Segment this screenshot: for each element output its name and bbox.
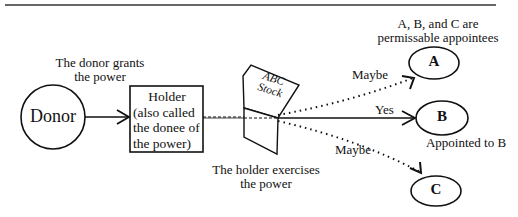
annotation-line: The holder exercises [206, 163, 326, 177]
edge-label-maybe-c: Maybe [335, 143, 371, 157]
annotation-line: the power [206, 177, 326, 191]
arrowhead-a-icon [402, 76, 414, 89]
annotation-line: permissable appointees [358, 31, 518, 45]
edge-label-maybe-a: Maybe [352, 68, 388, 82]
holder-label-line: the power) [133, 136, 201, 152]
holder-exercises-annotation: The holder exercises the power [206, 163, 326, 191]
donor-label: Donor [21, 106, 85, 127]
power-of-appointment-diagram: Donor Holder (also called the donee of t… [0, 0, 518, 217]
node-b-label: B [432, 108, 452, 125]
annotation-line: A, B, and C are [358, 17, 518, 31]
arrowhead-c-icon [410, 162, 421, 173]
annotation-line: The donor grants [40, 56, 160, 70]
donor-grants-annotation: The donor grants the power [40, 56, 160, 84]
holder-label-line: Holder [133, 89, 201, 105]
holder-label-line: (also called [133, 105, 201, 121]
holder-label: Holder (also called the donee of the pow… [133, 89, 201, 151]
appointed-to-b-annotation: Appointed to B [416, 136, 516, 150]
node-c-label: C [426, 181, 446, 198]
holder-label-line: the donee of [133, 120, 201, 136]
permissible-appointees-annotation: A, B, and C are permissable appointees [358, 17, 518, 45]
annotation-line: the power [40, 70, 160, 84]
edge-label-yes-b: Yes [375, 103, 394, 117]
node-a-label: A [424, 53, 444, 70]
